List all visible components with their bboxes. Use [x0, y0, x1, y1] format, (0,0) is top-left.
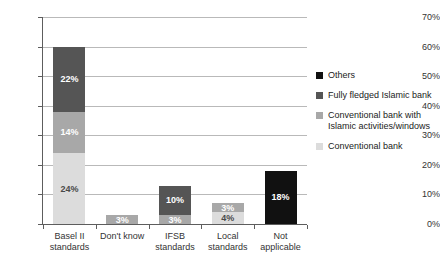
- legend-swatch-icon: [316, 72, 323, 79]
- bar-segment[interactable]: 14%: [53, 112, 85, 153]
- y-axis-tick-label: 70%: [406, 13, 440, 22]
- legend-item-label: Fully fledged Islamic bank: [328, 90, 432, 100]
- x-axis-tick-mark: [254, 225, 255, 229]
- y-axis-tick-label: 10%: [406, 190, 440, 199]
- bars-area: 24%14%22%3%3%10%4%3%18%: [43, 17, 307, 224]
- bar-segment[interactable]: 22%: [53, 47, 85, 112]
- bar-column[interactable]: 3%10%: [159, 17, 191, 224]
- legend-item-label: Conventional bank with Islamic activitie…: [328, 110, 430, 131]
- x-axis-category-label: Localstandards: [201, 231, 254, 253]
- bar-segment[interactable]: 24%: [53, 153, 85, 224]
- stacked-bar-chart: 0%10%20%30%40%50%60%70% 24%14%22%3%3%10%…: [0, 0, 440, 260]
- x-axis-category-label: Basel IIstandards: [43, 231, 96, 253]
- bar-segment[interactable]: 10%: [159, 186, 191, 216]
- legend-item-label: Others: [328, 70, 355, 80]
- bar-value-label: 18%: [265, 192, 297, 202]
- y-axis-tick-mark: [38, 106, 42, 107]
- y-axis-tick-mark: [38, 224, 42, 225]
- y-axis-tick-mark: [38, 194, 42, 195]
- bar-column[interactable]: 18%: [265, 17, 297, 224]
- bar-value-label: 3%: [106, 215, 138, 225]
- legend-item[interactable]: Others: [316, 70, 440, 81]
- x-axis-category-label: Don't know: [96, 231, 149, 242]
- bar-segment[interactable]: 3%: [212, 203, 244, 212]
- category-label-line: Don't know: [96, 231, 149, 242]
- bar-value-label: 14%: [53, 127, 85, 137]
- legend-item[interactable]: Fully fledged Islamic bank: [316, 90, 440, 101]
- y-axis-tick-label: 60%: [406, 43, 440, 52]
- x-axis-tick-mark: [201, 225, 202, 229]
- legend-item[interactable]: Conventional bank: [316, 141, 440, 152]
- x-axis-tick-mark: [307, 225, 308, 229]
- bar-column[interactable]: 3%: [106, 17, 138, 224]
- bar-segment[interactable]: 3%: [159, 215, 191, 224]
- legend-item[interactable]: Conventional bank with Islamic activitie…: [316, 110, 440, 132]
- bar-value-label: 10%: [159, 195, 191, 205]
- category-label-line: Basel II: [43, 231, 96, 242]
- bar-segment[interactable]: 18%: [265, 171, 297, 224]
- y-axis-tick-mark: [38, 47, 42, 48]
- y-axis-tick-mark: [38, 17, 42, 18]
- category-label-line: standards: [201, 242, 254, 253]
- bar-value-label: 24%: [53, 184, 85, 194]
- legend-swatch-icon: [316, 112, 323, 119]
- bar-column[interactable]: 24%14%22%: [53, 17, 85, 224]
- y-axis-tick-label: 0%: [406, 220, 440, 229]
- x-axis-tick-mark: [149, 225, 150, 229]
- y-axis-tick-mark: [38, 135, 42, 136]
- category-label-line: Local: [201, 231, 254, 242]
- legend-item-label: Conventional bank: [328, 141, 403, 151]
- bar-segment[interactable]: 3%: [106, 215, 138, 224]
- category-label-line: standards: [43, 242, 96, 253]
- bar-column[interactable]: 4%3%: [212, 17, 244, 224]
- chart-legend: OthersFully fledged Islamic bankConventi…: [316, 70, 440, 161]
- bar-segment[interactable]: 4%: [212, 212, 244, 224]
- x-axis-tick-mark: [43, 225, 44, 229]
- category-label-line: applicable: [254, 242, 307, 253]
- category-label-line: standards: [149, 242, 202, 253]
- x-axis-category-label: IFSBstandards: [149, 231, 202, 253]
- bar-value-label: 3%: [159, 215, 191, 225]
- y-axis-tick-mark: [38, 165, 42, 166]
- legend-swatch-icon: [316, 143, 323, 150]
- bar-value-label: 3%: [212, 203, 244, 213]
- legend-swatch-icon: [316, 92, 323, 99]
- bar-value-label: 4%: [212, 213, 244, 223]
- bar-value-label: 22%: [53, 74, 85, 84]
- x-axis-category-label: Notapplicable: [254, 231, 307, 253]
- y-axis-tick-mark: [38, 76, 42, 77]
- y-axis-tick-label: 20%: [406, 161, 440, 170]
- category-label-line: Not: [254, 231, 307, 242]
- x-axis-tick-mark: [96, 225, 97, 229]
- category-label-line: IFSB: [149, 231, 202, 242]
